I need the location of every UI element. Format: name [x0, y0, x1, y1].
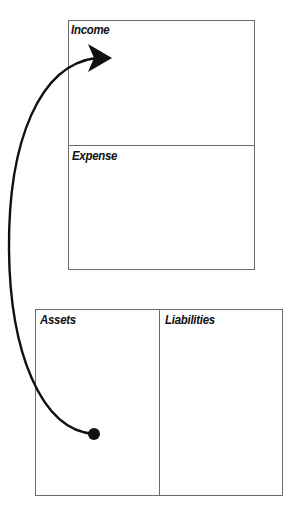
start-dot-icon	[88, 428, 100, 440]
assets-to-income-arrow	[0, 0, 290, 511]
flow-curve	[9, 58, 96, 434]
